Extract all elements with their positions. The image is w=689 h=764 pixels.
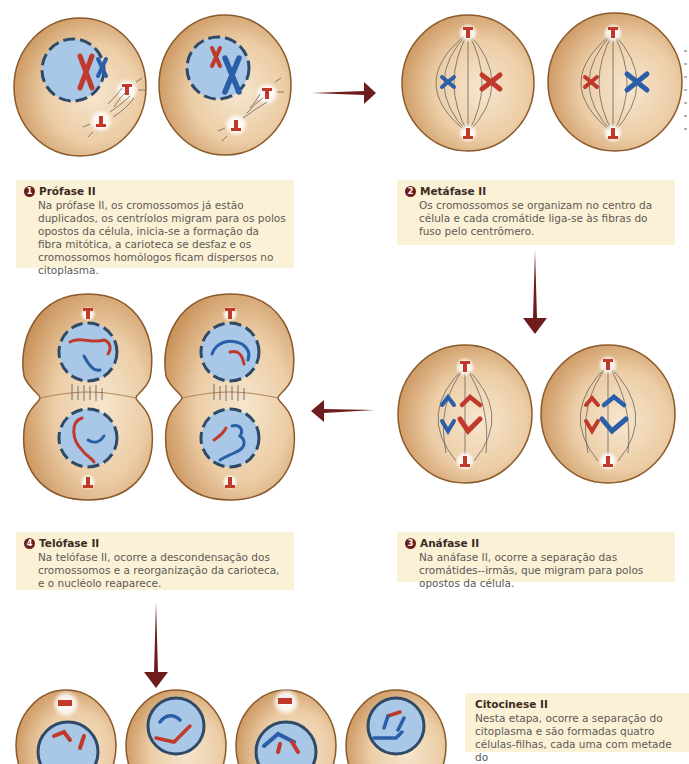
caption-title: Citocinese II	[475, 698, 548, 711]
arrow-down-icon	[143, 602, 169, 688]
telophase-cell-2	[160, 290, 300, 504]
prophase-cell-2	[155, 8, 295, 160]
caption-text: Nesta etapa, ocorre a separação do citop…	[475, 712, 681, 764]
caption-text: Na prófase II, os cromossomos já estão d…	[24, 199, 286, 277]
caption-prophase: 1Prófase II Na prófase II, os cromossomo…	[16, 180, 294, 268]
caption-metaphase: 2Metáfase II Os cromossomos se organizam…	[397, 180, 675, 245]
telophase-cell-1	[18, 290, 158, 504]
caption-anaphase: 3Anáfase II Na anáfase II, ocorre a sepa…	[397, 532, 675, 582]
caption-text: Os cromossomos se organizam no centro da…	[405, 199, 667, 238]
metaphase-cell-2	[545, 11, 685, 153]
prophase-cell-1	[10, 12, 150, 162]
metaphase-cell-1	[400, 13, 536, 153]
anaphase-cell-1	[396, 343, 534, 485]
step-number-badge: 1	[24, 186, 35, 197]
daughter-cell-2	[124, 688, 228, 752]
caption-text: Na telófase II, ocorre a descondensação …	[24, 551, 286, 590]
caption-text: Na anáfase II, ocorre a separação das cr…	[405, 551, 667, 590]
caption-title: Metáfase II	[420, 185, 486, 198]
daughter-cell-3	[234, 686, 338, 752]
step-number-badge: 4	[24, 538, 35, 549]
caption-title: Anáfase II	[420, 537, 479, 550]
step-number-badge: 2	[405, 186, 416, 197]
anaphase-cell-2	[538, 343, 678, 485]
caption-title: Prófase II	[39, 185, 96, 198]
daughter-cell-4	[344, 688, 448, 752]
step-number-badge: 3	[405, 538, 416, 549]
caption-cytokinesis: Citocinese II Nesta etapa, ocorre a sepa…	[465, 693, 689, 752]
daughter-cell-1	[14, 688, 118, 752]
arrow-left-icon	[310, 397, 376, 425]
arrow-right-icon	[312, 78, 377, 108]
caption-telophase: 4Telófase II Na telófase II, ocorre a de…	[16, 532, 294, 590]
page-edge-marks	[684, 50, 689, 145]
arrow-down-icon	[522, 250, 548, 335]
caption-title: Telófase II	[39, 537, 99, 550]
